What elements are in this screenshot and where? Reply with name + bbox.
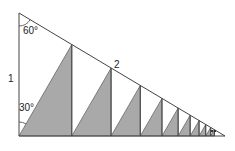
shaded-triangle [19,45,72,136]
shaded-triangle [178,115,190,136]
label-left-side: 1 [8,73,14,84]
shaded-triangle [111,85,140,136]
dot [211,130,213,132]
shaded-triangle [140,98,162,136]
shaded-triangle [72,68,111,136]
label-top-angle: 60° [23,25,38,36]
label-bottom-angle: 30° [19,102,34,113]
shaded-triangle [162,108,178,136]
shaded-triangle [199,124,206,136]
diagram: 60° 30° 1 2 [0,0,235,151]
shaded-triangle [206,127,211,136]
label-hypotenuse: 2 [114,59,120,70]
angle-arc-30 [19,122,26,124]
triangle-figure: 60° 30° 1 2 [0,0,235,151]
shaded-triangle [190,121,199,136]
dot [214,130,216,132]
